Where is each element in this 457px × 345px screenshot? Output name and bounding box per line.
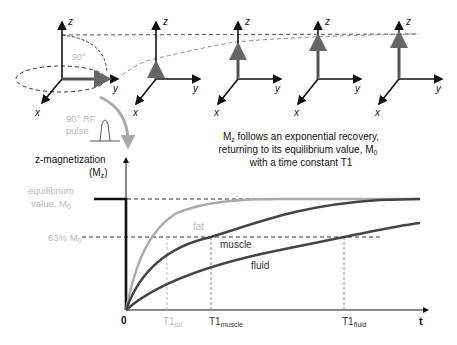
svg-text:value, M0: value, M0 bbox=[31, 198, 71, 210]
svg-text:returning to its equilibrium v: returning to its equilibrium value, M0 bbox=[219, 144, 378, 156]
svg-text:z: z bbox=[67, 16, 73, 27]
svg-text:63% M0: 63% M0 bbox=[48, 232, 82, 244]
pre-pulse-step bbox=[94, 199, 126, 310]
svg-text:z-magnetization: z-magnetization bbox=[35, 154, 106, 165]
svg-text:T1muscle: T1muscle bbox=[209, 316, 243, 328]
svg-text:pulse: pulse bbox=[66, 125, 89, 136]
svg-text:x: x bbox=[132, 107, 139, 118]
svg-text:(Mz): (Mz) bbox=[89, 167, 108, 179]
svg-text:90°: 90° bbox=[72, 52, 86, 62]
svg-text:fat: fat bbox=[193, 221, 204, 232]
svg-text:y: y bbox=[192, 83, 199, 94]
svg-text:z: z bbox=[244, 16, 250, 27]
axes-frame-3: z y x bbox=[213, 16, 281, 118]
curve-fluid bbox=[126, 223, 420, 310]
svg-text:z: z bbox=[405, 16, 411, 27]
svg-text:z: z bbox=[162, 16, 168, 27]
rf-curved-arrow bbox=[100, 97, 128, 142]
svg-text:z: z bbox=[324, 16, 330, 27]
recovery-path-curve bbox=[122, 34, 418, 75]
caption: Mz follows an exponential recovery, retu… bbox=[219, 131, 380, 168]
svg-text:y: y bbox=[354, 83, 361, 94]
svg-text:y: y bbox=[112, 83, 119, 94]
axes-frame-1: z y x 90° bbox=[16, 16, 119, 118]
svg-text:x: x bbox=[293, 107, 300, 118]
svg-text:90° RF: 90° RF bbox=[66, 113, 96, 124]
svg-text:y: y bbox=[274, 83, 281, 94]
svg-text:0: 0 bbox=[121, 315, 127, 326]
svg-text:x: x bbox=[213, 107, 220, 118]
svg-text:with a time constant T1: with a time constant T1 bbox=[249, 157, 353, 168]
svg-text:T1fluid: T1fluid bbox=[342, 316, 367, 328]
recovery-graph: z-magnetization (Mz) equilibrium value, … bbox=[28, 154, 428, 328]
svg-text:Mz follows an exponential reco: Mz follows an exponential recovery, bbox=[223, 131, 379, 143]
svg-text:fluid: fluid bbox=[251, 260, 269, 271]
axes-frame-2: z y x bbox=[132, 16, 200, 118]
svg-text:equilibrium: equilibrium bbox=[28, 185, 74, 196]
t1-recovery-diagram: z y x 90° z y x z y x z y x z y x bbox=[0, 0, 457, 345]
svg-text:t: t bbox=[419, 315, 423, 327]
svg-text:T1fat: T1fat bbox=[163, 316, 183, 328]
axes-frame-5: z y x bbox=[374, 16, 442, 118]
svg-text:x: x bbox=[374, 107, 381, 118]
axes-frame-4: z y x bbox=[293, 16, 361, 118]
rf-pulse: 90° RF pulse bbox=[66, 97, 128, 142]
svg-text:muscle: muscle bbox=[220, 239, 252, 250]
svg-text:x: x bbox=[34, 107, 41, 118]
curve-muscle bbox=[126, 199, 420, 310]
svg-text:y: y bbox=[435, 83, 442, 94]
